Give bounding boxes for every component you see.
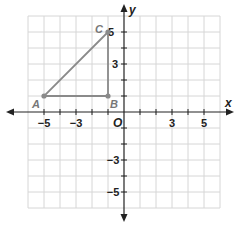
point-c	[105, 29, 110, 34]
y-tick-label: −5	[107, 186, 120, 198]
y-tick-label: −3	[107, 154, 120, 166]
origin-label: O	[113, 116, 123, 130]
x-axis-left-arrow-icon	[6, 109, 14, 116]
y-axis-down-arrow-icon	[121, 214, 128, 222]
x-axis-label: x	[224, 96, 233, 110]
x-tick-label: 3	[169, 117, 175, 129]
coordinate-plane: y x O −5 −3 3 5 5 3 −3 −5 A B C	[0, 0, 240, 229]
point-b-label: B	[110, 98, 118, 110]
y-axis-label: y	[128, 3, 137, 17]
x-axis	[6, 109, 234, 116]
y-axis-up-arrow-icon	[121, 4, 128, 12]
point-c-label: C	[95, 23, 104, 35]
point-a	[41, 93, 46, 98]
x-tick-label: 5	[201, 117, 207, 129]
x-tick-label: −5	[38, 117, 51, 129]
point-a-label: A	[31, 98, 40, 110]
x-tick-label: −3	[70, 117, 83, 129]
y-tick-label: 3	[112, 58, 118, 70]
y-axis	[121, 4, 128, 222]
